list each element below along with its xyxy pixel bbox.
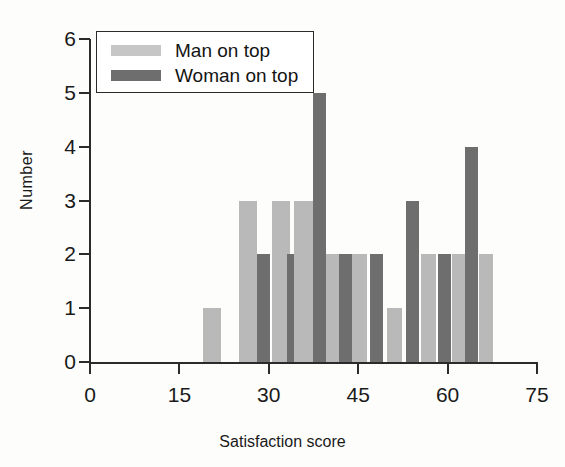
legend-item-woman: Woman on top bbox=[111, 63, 313, 88]
x-tick-label: 30 bbox=[244, 384, 294, 405]
chart-legend: Man on top Woman on top bbox=[96, 31, 314, 93]
bar bbox=[339, 254, 353, 362]
x-axis-line bbox=[89, 362, 537, 364]
x-tick-label: 60 bbox=[423, 384, 473, 405]
y-tick-mark bbox=[79, 38, 90, 40]
bar bbox=[313, 93, 326, 362]
y-tick-label: 3 bbox=[46, 190, 76, 211]
y-tick-mark bbox=[79, 146, 90, 148]
legend-swatch-icon-woman bbox=[111, 70, 161, 81]
chart-figure: Number 0123456 01530456075 Satisfaction … bbox=[0, 0, 565, 467]
legend-swatch-icon-man bbox=[111, 45, 161, 56]
bar bbox=[370, 254, 383, 362]
bar bbox=[465, 147, 478, 362]
y-tick-mark bbox=[79, 200, 90, 202]
legend-label-woman: Woman on top bbox=[175, 66, 298, 85]
bar bbox=[438, 254, 451, 362]
x-tick-mark bbox=[268, 362, 270, 374]
y-axis-title: Number bbox=[18, 150, 36, 210]
y-tick-mark bbox=[79, 253, 90, 255]
legend-item-man: Man on top bbox=[111, 38, 313, 63]
y-tick-mark bbox=[79, 92, 90, 94]
y-tick-label: 1 bbox=[46, 297, 76, 318]
bar bbox=[203, 308, 221, 362]
legend-label-man: Man on top bbox=[175, 41, 270, 60]
bar bbox=[387, 308, 402, 362]
x-tick-label: 0 bbox=[65, 384, 115, 405]
x-axis-title: Satisfaction score bbox=[0, 433, 565, 451]
y-tick-label: 5 bbox=[46, 82, 76, 103]
bar bbox=[239, 201, 257, 363]
bar bbox=[352, 254, 367, 362]
bar bbox=[326, 254, 339, 362]
x-tick-mark bbox=[89, 362, 91, 374]
x-tick-label: 15 bbox=[154, 384, 204, 405]
y-tick-mark bbox=[79, 307, 90, 309]
x-tick-label: 75 bbox=[512, 384, 562, 405]
bar bbox=[257, 254, 270, 362]
x-tick-label: 45 bbox=[333, 384, 383, 405]
bar bbox=[452, 254, 465, 362]
x-tick-mark bbox=[357, 362, 359, 374]
x-tick-mark bbox=[536, 362, 538, 374]
y-tick-label: 4 bbox=[46, 136, 76, 157]
x-tick-mark bbox=[447, 362, 449, 374]
y-tick-label: 6 bbox=[46, 28, 76, 49]
y-tick-label: 0 bbox=[46, 351, 76, 372]
y-tick-label: 2 bbox=[46, 243, 76, 264]
bar bbox=[479, 254, 493, 362]
bar bbox=[294, 201, 312, 363]
x-tick-mark bbox=[178, 362, 180, 374]
bar bbox=[421, 254, 436, 362]
bar bbox=[406, 201, 419, 363]
